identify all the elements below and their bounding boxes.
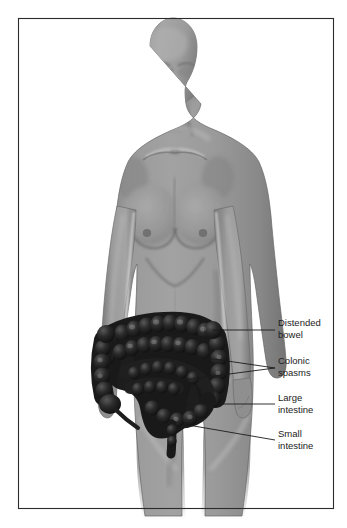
label-large-intestine-line1: Large [278, 392, 302, 403]
illustration-root: Distended bowel Colonic spasms Large int… [0, 0, 347, 528]
label-distended-bowel-line1: Distended [278, 317, 321, 328]
body-figure [98, 18, 286, 522]
left-ear [136, 66, 147, 86]
label-large-intestine-line2: intestine [278, 404, 313, 415]
label-group: Distended bowel Colonic spasms Large int… [278, 317, 321, 451]
label-small-intestine-line2: intestine [278, 440, 313, 451]
anatomy-illustration-canvas: Distended bowel Colonic spasms Large int… [0, 0, 347, 528]
label-distended-bowel-line2: bowel [278, 329, 303, 340]
label-colonic-spasms-line2: spasms [278, 367, 311, 378]
label-small-intestine-line1: Small [278, 428, 302, 439]
label-colonic-spasms-line1: Colonic [278, 355, 310, 366]
left-nipple [143, 229, 151, 237]
right-nipple [199, 229, 207, 237]
right-ear [201, 66, 212, 86]
